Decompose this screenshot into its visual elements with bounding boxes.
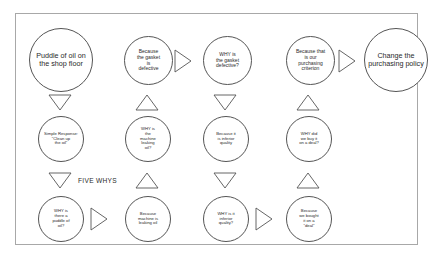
node-problem-label: Puddle of oil on the shop floor [30,52,92,69]
node-simple-response-label: Simple Response: "Clean up the oil" [41,132,81,147]
node-why-gasket-defective-label: WHY is the gasket defective? [213,52,242,70]
node-conclusion: Change the purchasing policy [364,28,428,92]
node-why-buy-on-deal-label: WHY did we buy it on a deal? [296,132,322,147]
node-conclusion-label: Change the purchasing policy [365,52,427,69]
node-why-inferior-quality-label: WHY is it inferior quality? [214,212,237,227]
node-because-inferior-quality-label: Because it is inferior quality [213,132,239,147]
node-because-bought-on-deal: Because we bought it on a "deal" [286,196,332,242]
node-because-purchasing-criterion: Because that is our purchasing criterion [286,36,335,85]
five-whys-caption: FIVE WHYS [78,177,117,184]
node-because-gasket-defective: Because the gasket is defective [124,36,173,85]
node-because-inferior-quality: Because it is inferior quality [203,116,249,162]
node-simple-response: Simple Response: "Clean up the oil" [38,116,84,162]
node-why-buy-on-deal: WHY did we buy it on a deal? [286,116,332,162]
node-why-inferior-quality: WHY is it inferior quality? [203,196,249,242]
node-because-purchasing-criterion-label: Because that is our purchasing criterion [293,49,328,73]
node-because-bought-on-deal-label: Because we bought it on a "deal" [296,209,321,229]
node-because-machine-leaking: Because machine is leaking oil [125,196,171,242]
node-because-gasket-defective-label: Because the gasket is defective [134,49,163,73]
node-why-gasket-defective: WHY is the gasket defective? [203,36,252,85]
five-whys-diagram-canvas: Puddle of oil on the shop floor Because … [0,0,447,265]
node-because-machine-leaking-label: Because machine is leaking oil [135,212,161,227]
node-why-machine-leaking: WHY is the machine leaking oil? [125,116,171,162]
node-why-puddle-of-oil: WHY is there a puddle of oil? [38,196,84,242]
node-why-puddle-of-oil-label: WHY is there a puddle of oil? [49,209,72,229]
node-problem: Puddle of oil on the shop floor [29,28,93,92]
node-why-machine-leaking-label: WHY is the machine leaking oil? [137,127,159,152]
